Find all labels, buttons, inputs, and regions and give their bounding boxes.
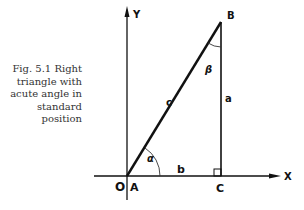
triangle <box>127 22 221 176</box>
y-axis-arrow-icon <box>125 6 130 17</box>
y-axis-label: Y <box>132 9 141 20</box>
vertex-a-label: A <box>130 181 139 194</box>
angle-beta-arc <box>208 43 221 47</box>
x-axis <box>94 174 281 179</box>
side-a-label: a <box>225 93 232 104</box>
vertex-b-label: B <box>227 10 235 21</box>
origin-label: O <box>115 180 125 194</box>
right-angle-marker-icon <box>214 169 221 176</box>
x-axis-label: X <box>284 171 292 182</box>
hypotenuse-line <box>127 22 221 176</box>
side-c-label: c <box>166 97 172 108</box>
angle-alpha-label: α <box>147 153 154 164</box>
vertex-c-label: C <box>216 182 224 195</box>
triangle-diagram: Y X α β c a b B C A O <box>0 0 304 210</box>
angle-beta-label: β <box>204 64 212 75</box>
side-b-label: b <box>177 163 185 176</box>
x-axis-arrow-icon <box>269 174 281 179</box>
